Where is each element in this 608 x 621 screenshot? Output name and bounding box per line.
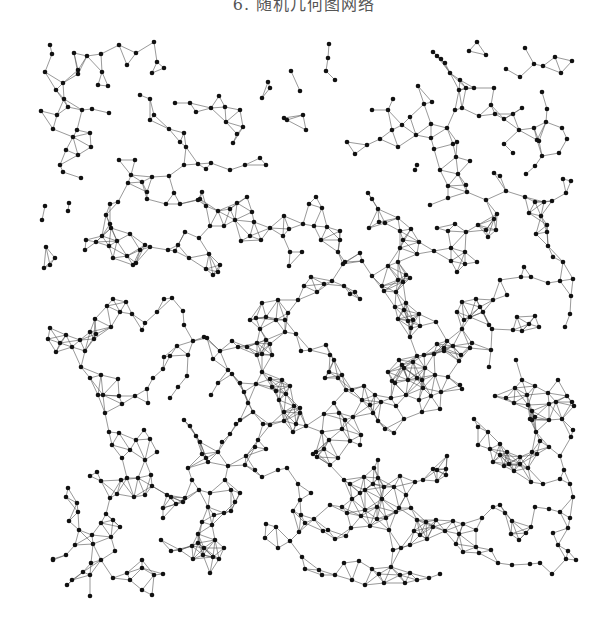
graph-node [213,538,218,543]
graph-node [201,553,206,558]
graph-node [404,393,409,398]
graph-edge [93,544,101,560]
graph-node [462,318,467,323]
graph-edge [353,417,361,435]
graph-node [255,353,260,358]
graph-node [208,491,213,496]
graph-node [264,338,269,343]
graph-node [264,447,269,452]
graph-node [155,450,160,455]
graph-edge [342,507,361,516]
graph-node [398,246,403,251]
graph-node [550,199,555,204]
graph-node [526,403,531,408]
graph-node [169,495,174,500]
graph-node [145,190,150,195]
graph-node [111,256,116,261]
graph-node [551,531,556,536]
graph-node [323,376,328,381]
graph-node [487,365,492,370]
graph-node [420,410,425,415]
graph-node [72,51,77,56]
graph-edge [462,88,466,108]
graph-node [523,195,528,200]
graph-node [117,43,122,48]
graph-node [209,161,214,166]
graph-node [370,108,375,113]
graph-node [222,224,227,229]
graph-node [235,201,240,206]
graph-node [298,498,303,503]
graph-node [386,108,391,113]
graph-edge [457,252,465,272]
graph-node [372,466,377,471]
graph-node [542,200,547,205]
graph-edge [306,426,322,432]
graph-node [545,107,550,112]
graph-edge [440,392,441,409]
graph-node [115,239,120,244]
graph-node [64,333,69,338]
graph-node [40,218,45,223]
graph-node [243,163,248,168]
graph-node [96,83,101,88]
graph-node [238,381,243,386]
graph-node [140,180,145,185]
graph-node [517,128,522,133]
graph-node [502,117,507,122]
graph-edge [527,393,548,395]
graph-edge [170,355,188,356]
graph-edge [199,490,208,507]
graph-edge [417,251,434,254]
graph-node [519,275,524,280]
graph-node [432,352,437,357]
graph-edge [536,216,541,234]
graph-node [292,404,297,409]
graph-node [489,348,494,353]
graph-edge [334,360,338,378]
graph-node [188,101,193,106]
graph-edge [515,386,535,388]
graph-node [155,60,160,65]
graph-node [486,235,491,240]
graph-node [393,381,398,386]
graph-node [417,240,422,245]
graph-node [415,354,420,359]
graph-node [217,94,222,99]
graph-edge [548,393,567,396]
graph-node [487,323,492,328]
graph-node [418,324,423,329]
graph-node [88,330,93,335]
graph-edge [254,222,261,240]
graph-edge [142,575,154,590]
graph-node [538,561,543,566]
graph-node [510,519,515,524]
graph-edge [467,192,486,200]
graph-node [344,534,349,539]
graph-node [230,372,235,377]
graph-node [253,468,258,473]
graph-node [398,474,403,479]
graph-node [439,390,444,395]
graph-node [445,126,450,131]
graph-node [534,430,539,435]
graph-node [298,406,303,411]
graph-edge [45,54,52,72]
graph-node [376,207,381,212]
graph-edge [535,404,549,417]
graph-node [54,350,59,355]
graph-edge [113,258,133,265]
graph-node [406,319,411,324]
graph-node [529,480,534,485]
graph-node [178,140,183,145]
graph-edge [161,540,180,550]
graph-node [565,137,570,142]
graph-node [557,151,562,156]
graph-node [489,103,494,108]
graph-node [574,558,579,563]
graph-edge [500,277,521,280]
graph-node [375,517,380,522]
graph-edge [290,541,302,557]
graph-node [243,463,248,468]
graph-node [289,69,294,74]
